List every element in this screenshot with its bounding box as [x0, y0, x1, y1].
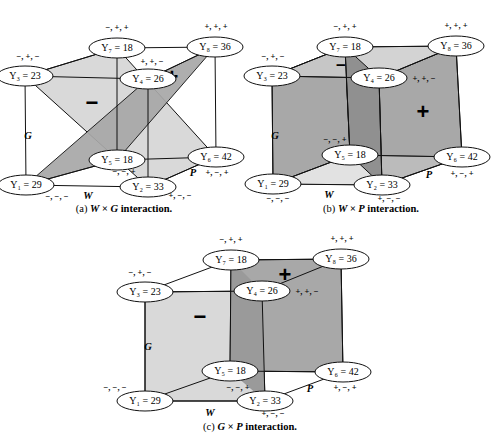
- signs-y6-a: +, −, +: [205, 167, 228, 177]
- cube-diagram-a: − + G W P −, +, + +, +, + −, +, − +, +, …: [0, 0, 248, 200]
- signs-y7-c: −, +, +: [219, 234, 242, 244]
- minus-mark-a: −: [86, 90, 99, 115]
- signs-y3-c: −, +, −: [128, 267, 151, 277]
- node-y3-label-c: Y₃ = 23: [129, 286, 160, 297]
- node-y1-label-c: Y₁ = 29: [129, 395, 160, 406]
- node-y6-b[interactable]: Y₆ = 42: [434, 147, 490, 167]
- signs-y8-c: +, +, +: [330, 233, 353, 243]
- node-y2-a[interactable]: Y₂ = 33: [120, 177, 176, 197]
- caption-a-suffix: interaction.: [121, 203, 173, 214]
- signs-y1-a: −, −, −: [45, 191, 68, 201]
- axis-label-g-c: G: [144, 341, 152, 352]
- plus-mark-b: +: [417, 99, 430, 124]
- node-y6-label-b: Y₆ = 42: [446, 151, 477, 162]
- panel-g-by-p: − + G W P −, +, + +, +, + −, +, − +, +, …: [105, 222, 395, 445]
- caption-c-factors: G × P: [217, 421, 242, 432]
- node-y5-label-c: Y₅ = 18: [214, 365, 245, 376]
- signs-y8-a: +, +, +: [204, 21, 227, 31]
- caption-b: (b) W × P interaction.: [247, 203, 495, 214]
- node-y3-b[interactable]: Y₃ = 23: [244, 66, 300, 86]
- minus-mark-b: −: [336, 56, 346, 75]
- node-y7-label-b: Y₇ = 18: [329, 41, 360, 52]
- node-y3-c[interactable]: Y₃ = 23: [117, 282, 173, 302]
- cube-diagram-b: − + G W P −, +, + +, +, + −, +, − +, +, …: [247, 0, 495, 200]
- node-y3-label-a: Y₃ = 23: [9, 70, 40, 81]
- signs-y4-b: +, +, −: [412, 73, 435, 83]
- node-y3-label-b: Y₃ = 23: [256, 70, 287, 81]
- axis-label-g-b: G: [271, 130, 279, 141]
- axis-label-g-a: G: [24, 130, 32, 141]
- node-y2-label-c: Y₂ = 33: [249, 395, 280, 406]
- signs-y4-c: +, +, −: [295, 286, 318, 296]
- caption-a-prefix: (a): [76, 203, 88, 214]
- node-y6-c[interactable]: Y₆ = 42: [315, 362, 371, 382]
- axis-label-p-a: P: [190, 167, 197, 178]
- node-y4-c[interactable]: Y₄ = 26: [234, 281, 290, 301]
- node-y7-c[interactable]: Y₇ = 18: [203, 250, 259, 270]
- signs-y6-b: +, −, +: [450, 168, 473, 178]
- node-y5-c[interactable]: Y₅ = 18: [202, 361, 258, 381]
- caption-a-factors: W × G: [90, 203, 118, 214]
- caption-b-suffix: interaction.: [367, 203, 419, 214]
- signs-y3-b: −, +, −: [261, 51, 284, 61]
- node-y7-label-c: Y₇ = 18: [215, 254, 246, 265]
- node-y5-label-a: Y₅ = 18: [101, 154, 132, 165]
- node-y1-label-a: Y₁ = 29: [10, 179, 41, 190]
- panel-w-by-g: − + G W P −, +, + +, +, + −, +, − +, +, …: [0, 0, 248, 222]
- node-y7-label-a: Y₇ = 18: [101, 42, 132, 53]
- node-y4-a[interactable]: Y₄ = 26: [120, 69, 176, 89]
- signs-y1-b: −, −, −: [266, 193, 289, 203]
- node-y8-label-c: Y₈ = 36: [325, 253, 356, 264]
- node-y6-label-a: Y₆ = 42: [200, 151, 231, 162]
- node-y8-label-a: Y₈ = 36: [199, 41, 230, 52]
- caption-b-factors: W × P: [338, 203, 365, 214]
- node-y1-label-b: Y₁ = 29: [257, 178, 288, 189]
- caption-c: (c) G × P interaction.: [105, 421, 395, 432]
- node-y6-a[interactable]: Y₆ = 42: [188, 147, 244, 167]
- node-y2-label-b: Y₂ = 33: [366, 179, 397, 190]
- signs-y8-b: +, +, +: [444, 20, 467, 30]
- node-y4-b[interactable]: Y₄ = 26: [351, 68, 407, 88]
- signs-y7-b: −, +, +: [333, 21, 356, 31]
- node-y6-label-c: Y₆ = 42: [327, 366, 358, 377]
- caption-c-prefix: (c): [203, 421, 215, 432]
- node-y5-b[interactable]: Y₅ = 18: [322, 145, 378, 165]
- signs-y4-a: +, +, −: [140, 56, 163, 66]
- node-y3-a[interactable]: Y₃ = 23: [0, 66, 53, 86]
- cube-diagram-c: − + G W P −, +, + +, +, + −, +, − +, +, …: [105, 222, 395, 422]
- node-y1-a[interactable]: Y₁ = 29: [0, 175, 54, 195]
- node-y4-label-a: Y₄ = 26: [132, 73, 163, 84]
- axis-label-w-b: W: [324, 189, 334, 200]
- node-y1-b[interactable]: Y₁ = 29: [245, 174, 301, 194]
- minus-mark-c: −: [194, 304, 207, 329]
- node-y2-b[interactable]: Y₂ = 33: [354, 175, 410, 195]
- node-y8-label-b: Y₈ = 36: [440, 40, 471, 51]
- node-y7-a[interactable]: Y₇ = 18: [89, 38, 145, 58]
- node-y8-a[interactable]: Y₈ = 36: [187, 37, 243, 57]
- node-y1-c[interactable]: Y₁ = 29: [117, 391, 173, 411]
- caption-b-prefix: (b): [323, 203, 335, 214]
- panel-w-by-p: − + G W P −, +, + +, +, + −, +, − +, +, …: [247, 0, 495, 222]
- caption-c-suffix: interaction.: [245, 421, 297, 432]
- node-y5-label-b: Y₅ = 18: [334, 149, 365, 160]
- signs-y7-a: −, +, +: [105, 22, 128, 32]
- axis-label-w-c: W: [205, 407, 215, 418]
- node-y2-label-a: Y₂ = 33: [132, 181, 163, 192]
- node-y5-a[interactable]: Y₅ = 18: [89, 150, 145, 170]
- signs-y1-c: −, −, −: [103, 382, 126, 392]
- node-y2-c[interactable]: Y₂ = 33: [237, 391, 293, 411]
- node-y7-b[interactable]: Y₇ = 18: [317, 37, 373, 57]
- node-y8-c[interactable]: Y₈ = 36: [313, 249, 369, 269]
- axis-label-w-a: W: [83, 190, 93, 201]
- node-y4-label-b: Y₄ = 26: [363, 72, 394, 83]
- signs-y5-c: −, −, +: [226, 382, 249, 392]
- axis-label-p-b: P: [426, 169, 433, 180]
- node-y4-label-c: Y₄ = 26: [246, 285, 277, 296]
- axis-label-p-c: P: [307, 383, 314, 394]
- node-y8-b[interactable]: Y₈ = 36: [428, 36, 484, 56]
- signs-y5-b: −, −, +: [323, 134, 346, 144]
- signs-y6-c: +, −, +: [333, 382, 356, 392]
- caption-a: (a) W × G interaction.: [0, 203, 248, 214]
- signs-y3-a: −, +, −: [16, 51, 39, 61]
